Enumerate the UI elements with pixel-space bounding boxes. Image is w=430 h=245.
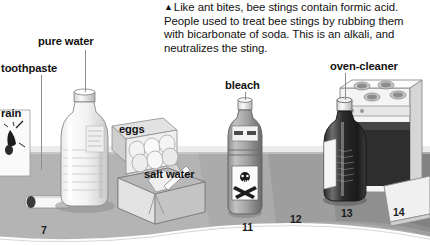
ph-tick-14: 14 (393, 206, 405, 218)
caption-text: ▲Like ant bites, bee stings contain form… (164, 1, 426, 55)
triangle-marker: ▲ (164, 2, 173, 12)
ph-tick-13: 13 (341, 207, 353, 219)
ph-scale-illustration: ▲Like ant bites, bee stings contain form… (0, 0, 430, 245)
rain-box-art (0, 110, 30, 176)
leader-line-bleach (245, 92, 246, 100)
bleach-bottle-art (228, 98, 262, 218)
water-bottle-art (55, 89, 115, 213)
label-toothpaste: toothpaste (1, 62, 57, 74)
label-oven-cleaner: oven-cleaner (330, 60, 398, 72)
ph-tick-7: 7 (41, 224, 47, 236)
label-bleach: bleach (225, 79, 260, 91)
label-rain: rain (1, 107, 21, 119)
label-salt-water: salt water (144, 168, 195, 180)
caption-body: Like ant bites, bee stings contain formi… (164, 1, 404, 54)
leader-line-oven-cleaner (345, 73, 346, 100)
label-eggs: eggs (119, 123, 145, 135)
leader-line-pure-water (85, 50, 86, 92)
ph-tick-12: 12 (290, 213, 302, 225)
ph-tick-11: 11 (242, 221, 253, 233)
label-pure-water: pure water (38, 35, 94, 47)
leader-line-toothpaste (41, 75, 42, 170)
